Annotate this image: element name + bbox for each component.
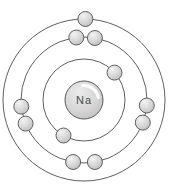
electron-shell-2 (87, 155, 102, 170)
electron-shell-2 (66, 155, 81, 170)
nucleus-label: Na (76, 94, 92, 106)
electron-shell-2 (87, 31, 102, 46)
electron-shell-2 (139, 98, 154, 113)
electron-shell-2 (14, 99, 29, 114)
electron-shell-1 (107, 65, 122, 80)
electron-shell-1 (56, 128, 71, 143)
electron-shell-2 (135, 115, 150, 130)
bohr-model-stage: Na (0, 0, 170, 190)
nucleus-group: Na (65, 81, 103, 119)
electron-shell-2 (69, 30, 84, 45)
electron-shell-3 (78, 12, 93, 27)
bohr-model-diagram: Na (0, 0, 170, 190)
electron-shell-2 (18, 116, 33, 131)
